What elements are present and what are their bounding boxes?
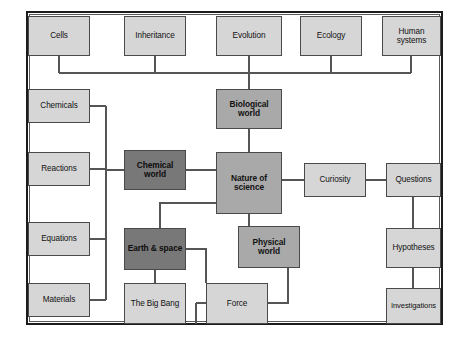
node-biological-world-label: Biological world — [219, 100, 279, 119]
node-equations[interactable]: Equations — [28, 222, 90, 256]
node-chemical-world[interactable]: Chemical world — [124, 150, 186, 190]
node-nature-of-science[interactable]: Nature of science — [216, 152, 282, 214]
node-chemicals[interactable]: Chemicals — [28, 89, 90, 123]
node-earth-and-space-label: Earth & space — [128, 244, 183, 253]
node-inheritance[interactable]: Inheritance — [124, 16, 186, 56]
node-curiosity[interactable]: Curiosity — [304, 163, 366, 197]
node-curiosity-label: Curiosity — [320, 175, 351, 184]
node-reactions[interactable]: Reactions — [28, 152, 90, 186]
link-nature-of-science-to-earth-and-space — [160, 203, 216, 228]
node-equations-label: Equations — [41, 234, 77, 243]
node-cells-label: Cells — [50, 31, 68, 40]
node-materials[interactable]: Materials — [28, 283, 90, 317]
node-the-big-bang-label: The Big Bang — [131, 299, 179, 308]
node-force-label: Force — [227, 299, 247, 308]
diagram-canvas: Cells Inheritance Evolution Ecology Huma… — [0, 0, 464, 358]
node-earth-and-space[interactable]: Earth & space — [124, 228, 186, 270]
node-human-systems-label: Human systems — [385, 27, 438, 45]
node-materials-label: Materials — [43, 295, 75, 304]
node-chemical-world-label: Chemical world — [127, 161, 183, 180]
node-force[interactable]: Force — [206, 283, 268, 324]
node-questions[interactable]: Questions — [386, 163, 441, 197]
node-reactions-label: Reactions — [41, 164, 77, 173]
node-evolution-label: Evolution — [233, 31, 266, 40]
node-investigations-label: Investigations — [391, 302, 436, 311]
node-human-systems[interactable]: Human systems — [382, 16, 441, 56]
link-earth-and-space-to-force — [186, 249, 206, 283]
node-biological-world[interactable]: Biological world — [216, 89, 282, 129]
node-inheritance-label: Inheritance — [135, 31, 174, 40]
node-ecology[interactable]: Ecology — [300, 16, 362, 56]
node-chemicals-label: Chemicals — [40, 101, 77, 110]
node-the-big-bang[interactable]: The Big Bang — [124, 283, 186, 324]
node-investigations[interactable]: Investigations — [386, 288, 441, 324]
node-ecology-label: Ecology — [317, 31, 345, 40]
node-questions-label: Questions — [396, 175, 432, 184]
node-physical-world[interactable]: Physical world — [238, 226, 300, 268]
node-evolution[interactable]: Evolution — [216, 16, 282, 56]
node-cells[interactable]: Cells — [28, 16, 90, 56]
link-physical-world-to-force — [268, 268, 288, 303]
link-force-left-stub — [196, 303, 206, 324]
node-physical-world-label: Physical world — [241, 238, 297, 257]
node-nature-of-science-label: Nature of science — [219, 174, 279, 193]
node-hypotheses[interactable]: Hypotheses — [386, 228, 441, 268]
node-hypotheses-label: Hypotheses — [392, 243, 434, 252]
